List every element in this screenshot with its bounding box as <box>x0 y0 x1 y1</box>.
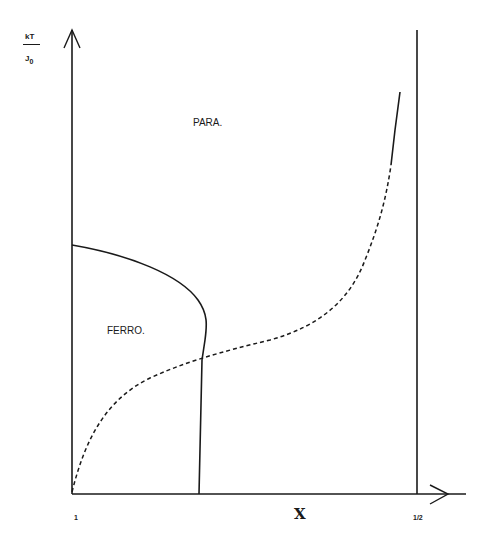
x-tick-label-1: 1 <box>74 514 78 521</box>
ferro-boundary-curve <box>72 245 206 494</box>
y-axis-label-fraction-bar <box>23 44 40 45</box>
x-axis-label: X <box>294 505 306 523</box>
upper-solid-curve <box>391 92 400 165</box>
region-label-ferro: FERRO. <box>107 325 145 336</box>
region-label-para: PARA. <box>193 117 222 128</box>
x-tick-label-half: 1/2 <box>413 514 423 521</box>
phase-diagram <box>0 0 484 544</box>
y-axis-label-subscript: 0 <box>29 58 33 65</box>
y-axis-label-numerator: kT <box>25 32 34 41</box>
y-axis-label-denominator: J0 <box>25 54 33 65</box>
